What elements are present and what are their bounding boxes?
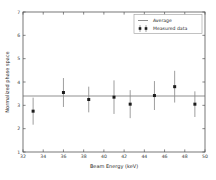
- y-axis-label: Normalized phase space: [4, 51, 11, 112]
- x-tick-label: 32: [20, 154, 26, 159]
- plot-canvas: 32343638404244464850 1234567 Beam Energy…: [0, 0, 216, 180]
- legend-label: Measured data: [153, 26, 187, 31]
- x-tick-label: 46: [162, 154, 168, 159]
- y-tick-label: 3: [17, 103, 20, 108]
- y-tick-label: 6: [17, 33, 20, 38]
- measured-data-series: [32, 71, 197, 125]
- data-point-marker: [113, 96, 116, 99]
- data-point-marker: [129, 103, 132, 106]
- y-tick-label: 1: [17, 150, 20, 155]
- y-tick-label: 2: [17, 126, 20, 131]
- x-axis-label: Beam Energy (keV): [90, 163, 138, 170]
- data-point-marker: [62, 91, 65, 94]
- x-tick-label: 34: [40, 154, 46, 159]
- chart-legend: AverageMeasured data: [134, 15, 202, 34]
- data-point-marker: [173, 85, 176, 88]
- x-tick-label: 36: [61, 154, 67, 159]
- chart-figure: 32343638404244464850 1234567 Beam Energy…: [0, 0, 216, 180]
- x-tick-label: 38: [81, 154, 87, 159]
- legend-swatch-marker: [145, 27, 148, 30]
- x-tick-label: 42: [121, 154, 127, 159]
- x-tick-label: 44: [141, 154, 147, 159]
- y-tick-label: 4: [17, 80, 20, 85]
- x-tick-label: 40: [101, 154, 107, 159]
- y-tick-label: 5: [17, 56, 20, 61]
- y-tick-label: 7: [17, 10, 20, 15]
- x-tick-label: 50: [202, 154, 208, 159]
- data-point-marker: [87, 98, 90, 101]
- data-point-marker: [153, 94, 156, 97]
- data-point-marker: [32, 110, 35, 113]
- legend-swatch-marker: [139, 27, 142, 30]
- legend-label: Average: [153, 18, 172, 23]
- x-tick-label: 48: [182, 154, 188, 159]
- data-point-marker: [193, 103, 196, 106]
